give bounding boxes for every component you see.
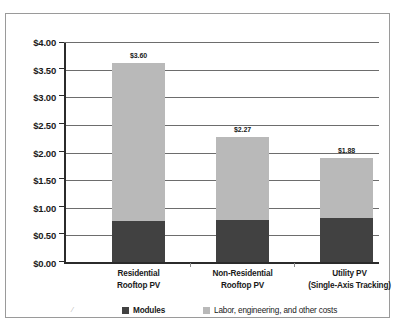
- x-axis-category-utility: Utility PV (Single-Axis Tracking): [292, 268, 404, 291]
- legend-swatch-icon: [122, 307, 129, 314]
- legend-item-modules[interactable]: Modules: [122, 306, 165, 315]
- plot-area: $3.60 $2.27 $1.88: [64, 43, 379, 264]
- x-axis-category-line: Residential: [86, 268, 191, 280]
- x-axis-labels: Residential Rooftop PV Non-Residential R…: [64, 268, 379, 302]
- bar-value-label: $1.88: [338, 147, 355, 154]
- bar-segment-modules[interactable]: [320, 218, 373, 262]
- x-axis-category-line: Rooftop PV: [86, 280, 191, 292]
- x-axis-category-line: Utility PV: [292, 268, 404, 280]
- y-axis-tick-label: $0.00: [33, 258, 56, 269]
- bar-segment-modules[interactable]: [216, 220, 269, 263]
- bar-value-label: $3.60: [130, 52, 147, 59]
- x-axis-category-non-residential: Non-Residential Rooftop PV: [190, 268, 295, 291]
- bar-utility-pv[interactable]: $1.88: [320, 158, 373, 262]
- bar-segment-other-costs[interactable]: [216, 137, 269, 220]
- chart-legend: Modules Labor, engineering, and other co…: [6, 306, 391, 322]
- y-axis-tick-label: $1.50: [33, 175, 56, 186]
- bar-segment-other-costs[interactable]: [320, 158, 373, 218]
- x-axis-line: [64, 262, 379, 264]
- x-axis-category-line: (Single-Axis Tracking): [292, 280, 404, 292]
- y-axis-tick-label: $3.50: [33, 65, 56, 76]
- legend-swatch-icon: [203, 307, 210, 314]
- y-axis-tick-label: $0.50: [33, 230, 56, 241]
- bar-segment-other-costs[interactable]: [112, 63, 165, 221]
- y-axis-tick-label: $2.50: [33, 120, 56, 131]
- bar-non-residential-rooftop-pv[interactable]: $2.27: [216, 137, 269, 262]
- x-axis-category-residential: Residential Rooftop PV: [86, 268, 191, 291]
- y-axis-tick-label: $3.00: [33, 92, 56, 103]
- y-axis-line: [64, 43, 66, 264]
- y-axis-tick-label: $1.00: [33, 203, 56, 214]
- x-axis-category-line: Non-Residential: [190, 268, 295, 280]
- y-axis-labels: $0.00 $0.50 $1.00 $1.50 $2.00 $2.50 $3.0…: [6, 43, 56, 264]
- bar-residential-rooftop-pv[interactable]: $3.60: [112, 63, 165, 262]
- legend-item-label: Modules: [133, 306, 165, 315]
- legend-item-other-costs[interactable]: Labor, engineering, and other costs: [203, 306, 337, 315]
- bar-value-label: $2.27: [234, 126, 251, 133]
- gridline: [64, 42, 379, 43]
- x-axis-category-line: Rooftop PV: [190, 280, 295, 292]
- legend-item-label: Labor, engineering, and other costs: [214, 306, 337, 315]
- x-axis-tick: [190, 263, 191, 267]
- bar-segment-modules[interactable]: [112, 221, 165, 262]
- y-axis-tick-label: $4.00: [33, 37, 56, 48]
- x-axis-tick: [294, 263, 295, 267]
- chart-figure: $0.00 $0.50 $1.00 $1.50 $2.00 $2.50 $3.0…: [5, 13, 390, 318]
- y-axis-tick-label: $2.00: [33, 148, 56, 159]
